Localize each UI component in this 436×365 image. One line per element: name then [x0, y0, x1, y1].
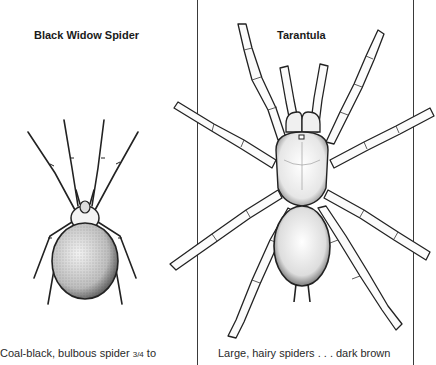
- tarantula-caption: Large, hairy spiders . . . dark brown: [218, 347, 390, 359]
- black-widow-illustration: [20, 118, 150, 308]
- caption-text-start: Coal-black, bulbous spider: [0, 347, 133, 359]
- caption-text-end: to: [144, 347, 156, 359]
- black-widow-caption: Coal-black, bulbous spider 3/4 to: [0, 347, 156, 359]
- black-widow-title: Black Widow Spider: [34, 29, 139, 41]
- caption-fraction: 3/4: [133, 350, 144, 359]
- tarantula-illustration: [160, 20, 436, 340]
